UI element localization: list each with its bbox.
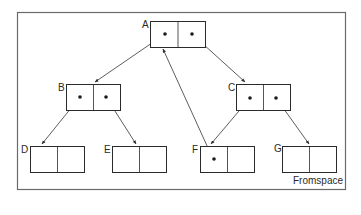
heap-diagram: Fromspace A B C D — [0, 0, 361, 215]
node-d-label: D — [21, 144, 28, 155]
node-e-label: E — [104, 144, 111, 155]
pointer-dot — [248, 96, 252, 100]
pointer-dot — [190, 32, 194, 36]
pointer-dot — [274, 96, 278, 100]
pointer-dot — [163, 32, 167, 36]
node-a-label: A — [142, 19, 149, 30]
node-c-label: C — [228, 82, 235, 93]
fromspace-label: Fromspace — [293, 175, 343, 186]
pointer-dot — [212, 157, 216, 161]
pointer-dot — [78, 95, 82, 99]
node-a: A — [142, 19, 206, 48]
node-f: F — [192, 144, 255, 173]
pointer-dot — [104, 95, 108, 99]
node-d: D — [21, 144, 85, 173]
node-b: B — [58, 82, 121, 111]
node-b-label: B — [58, 82, 65, 93]
node-g-label: G — [274, 143, 282, 154]
edge-f-a — [163, 49, 213, 159]
node-g: G — [274, 143, 337, 173]
node-f-label: F — [192, 144, 198, 155]
node-e: E — [104, 144, 167, 173]
node-c: C — [228, 82, 291, 111]
